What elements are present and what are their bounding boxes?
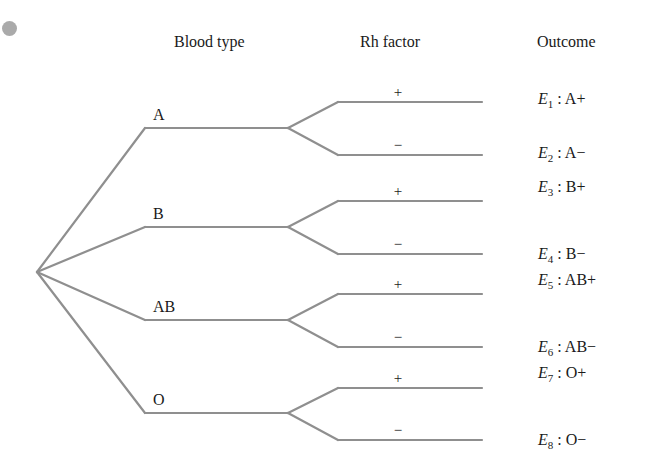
outcome-e1: E1 : A+ (538, 90, 585, 110)
branch-root-o (37, 272, 145, 413)
fork-ab-pos (288, 294, 338, 320)
branch-label-a: A (153, 106, 165, 124)
branch-label-ab: AB (153, 298, 175, 316)
fork-b-neg (288, 227, 338, 254)
outcome-e2: E2 : A− (538, 144, 585, 164)
outcome-e5: E5 : AB+ (538, 271, 596, 291)
rh-sign-b-pos: + (390, 183, 406, 200)
branch-label-o: O (153, 391, 165, 409)
outcome-e4: E4 : B− (538, 245, 585, 265)
rh-sign-a-neg: − (390, 137, 406, 154)
tree-diagram (0, 0, 647, 476)
fork-b-pos (288, 201, 338, 227)
rh-sign-ab-neg: − (390, 329, 406, 346)
fork-a-neg (288, 128, 338, 155)
fork-a-pos (288, 102, 338, 128)
fork-ab-neg (288, 320, 338, 347)
fork-o-pos (288, 388, 338, 413)
branch-root-ab (37, 272, 145, 320)
fork-o-neg (288, 413, 338, 440)
rh-sign-o-pos: + (390, 370, 406, 387)
rh-sign-ab-pos: + (390, 276, 406, 293)
rh-sign-o-neg: − (390, 422, 406, 439)
outcome-e8: E8 : O− (538, 431, 586, 451)
outcome-e7: E7 : O+ (538, 364, 586, 384)
outcome-e3: E3 : B+ (538, 178, 585, 198)
rh-sign-a-pos: + (390, 84, 406, 101)
rh-sign-b-neg: − (390, 236, 406, 253)
branch-label-b: B (153, 205, 164, 223)
outcome-e6: E6 : AB− (538, 338, 596, 358)
